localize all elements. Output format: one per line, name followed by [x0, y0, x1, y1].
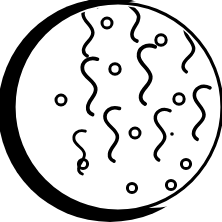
- dot-mark: [170, 132, 174, 136]
- moon-illustration: [0, 0, 222, 222]
- figure-canvas: eal.: [0, 0, 222, 222]
- dot-marks: [170, 132, 174, 136]
